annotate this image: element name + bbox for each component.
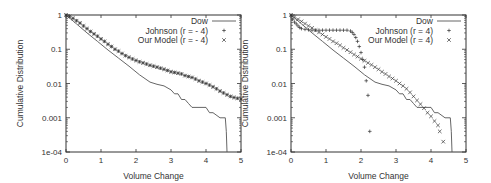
legend-plus-swatch (222, 29, 226, 33)
model-point (429, 115, 433, 119)
x-tick-label: 3 (169, 156, 174, 165)
legend-label: Dow (191, 16, 209, 26)
left-chart-panel: 01234510.10.010.0011e-04Volume ChangeCum… (15, 11, 244, 181)
legend-cross-swatch (222, 38, 226, 42)
model-point (307, 24, 311, 28)
x-tick-label: 0 (64, 156, 69, 165)
model-point (373, 65, 377, 69)
legend-label: Dow (416, 16, 434, 26)
johnson-point (354, 36, 358, 40)
legend: DowJohnson (r = - 4)Our Model (r = - 4) (138, 16, 236, 45)
johnson-point (296, 24, 300, 28)
x-tick-label: 5 (464, 156, 469, 165)
johnson-point (338, 28, 342, 32)
y-tick-label: 0.001 (267, 114, 288, 123)
x-tick-label: 5 (239, 156, 244, 165)
johnson-point (345, 28, 349, 32)
model-point (352, 53, 356, 57)
johnson-point (363, 65, 367, 69)
johnson-point (293, 20, 297, 24)
model-point (300, 20, 304, 24)
x-tick-label: 0 (289, 156, 294, 165)
legend-label: Johnson (r = - 4) (145, 26, 208, 36)
model-point (321, 33, 325, 37)
legend-cross-swatch (447, 38, 451, 42)
model-point (370, 63, 374, 67)
model-point (419, 102, 423, 106)
model-point (436, 124, 440, 128)
model-point (342, 46, 346, 50)
johnson-point (321, 28, 325, 32)
model-point (345, 48, 349, 52)
x-tick-label: 4 (204, 156, 209, 165)
johnson-point (331, 28, 335, 32)
johnson-point (366, 94, 370, 98)
johnson-point (364, 79, 368, 83)
johnson-point (294, 22, 298, 26)
model-point (366, 61, 370, 65)
y-tick-label: 0.1 (276, 45, 288, 54)
y-tick-label: 0.001 (42, 114, 63, 123)
model-point (441, 140, 445, 144)
y-tick-label: 0.01 (271, 80, 287, 89)
model-point (338, 44, 342, 48)
y-tick-label: 0.1 (51, 45, 63, 54)
x-tick-label: 2 (359, 156, 364, 165)
johnson-point (356, 40, 360, 44)
model-point (422, 106, 426, 110)
x-tick-label: 1 (99, 156, 104, 165)
x-tick-label: 1 (324, 156, 329, 165)
model-point (398, 82, 402, 86)
model-point (391, 77, 395, 81)
figure: 01234510.10.010.0011e-04Volume ChangeCum… (0, 0, 491, 183)
x-tick-label: 3 (394, 156, 399, 165)
model-point (433, 119, 437, 123)
model-point (324, 35, 328, 39)
model-point (380, 70, 384, 74)
johnson-point (357, 45, 361, 49)
model-point (356, 55, 360, 59)
model-point (405, 87, 409, 91)
model-point (328, 37, 332, 41)
x-tick-label: 2 (134, 156, 139, 165)
model-point (415, 99, 419, 103)
legend-label: Our Model (r = 4) (368, 35, 433, 45)
y-tick-label: 1 (283, 11, 288, 20)
y-tick-label: 1 (58, 11, 63, 20)
x-tick-label: 4 (429, 156, 434, 165)
model-point (303, 22, 307, 26)
model-point (394, 79, 398, 83)
y-tick-label: 0.01 (46, 80, 62, 89)
x-axis-label: Volume Change (123, 171, 184, 181)
y-tick-label: 1e-04 (42, 148, 63, 157)
y-tick-label: 1e-04 (267, 148, 288, 157)
legend-label: Johnson (r = 4) (376, 26, 434, 36)
johnson-point (328, 28, 332, 32)
legend: DowJohnson (r = 4)Our Model (r = 4) (368, 16, 461, 45)
johnson-point (352, 33, 356, 37)
model-point (377, 67, 381, 71)
y-axis-label: Cumulative Distribution (15, 40, 25, 128)
johnson-point (324, 28, 328, 32)
model-point (438, 130, 442, 134)
series-plus (289, 13, 371, 133)
model-point (387, 75, 391, 79)
legend-plus-swatch (447, 29, 451, 33)
johnson-point (335, 28, 339, 32)
model-point (412, 95, 416, 99)
model-point (408, 91, 412, 95)
model-point (384, 72, 388, 76)
johnson-point (359, 51, 363, 55)
legend-label: Our Model (r = - 4) (138, 35, 208, 45)
right-chart-panel: 01234510.10.010.0011e-04Volume ChangeCum… (240, 11, 469, 181)
model-point (426, 111, 430, 115)
johnson-point (342, 28, 346, 32)
model-point (401, 84, 405, 88)
model-point (359, 57, 363, 61)
model-point (331, 40, 335, 44)
model-point (335, 41, 339, 45)
johnson-point (368, 130, 372, 134)
model-point (349, 50, 353, 54)
x-axis-label: Volume Change (348, 171, 409, 181)
y-axis-label: Cumulative Distribution (240, 40, 250, 128)
